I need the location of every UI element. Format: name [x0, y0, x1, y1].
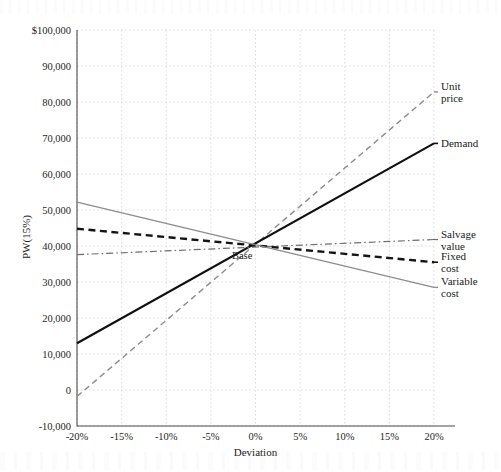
x-axis-title: Deviation: [234, 446, 278, 458]
annotation-base-point: Base: [232, 250, 253, 261]
x-tick-label: -10%: [155, 431, 178, 442]
sensitivity-chart-container: -10,000010,00020,00030,00040,00050,00060…: [0, 0, 501, 472]
y-tick-label: 70,000: [42, 133, 71, 144]
y-tick-label: 0: [66, 385, 71, 396]
chart-background: [0, 0, 501, 472]
x-tick-label: 20%: [424, 431, 444, 442]
y-tick-label: -10,000: [39, 421, 71, 432]
y-tick-label: 30,000: [42, 277, 71, 288]
x-tick-label: 15%: [380, 431, 400, 442]
y-tick-label: 90,000: [42, 61, 71, 72]
x-tick-label: 10%: [335, 431, 355, 442]
y-tick-label: 60,000: [42, 169, 71, 180]
series-label-demand: Demand: [441, 137, 479, 149]
y-axis-title: PW(15%): [20, 215, 33, 259]
y-tick-label: 50,000: [42, 205, 71, 216]
x-tick-label: -15%: [110, 431, 133, 442]
x-tick-label: 0%: [249, 431, 263, 442]
series-label-unit-price: Unitprice: [441, 80, 463, 104]
y-tick-label: 20,000: [42, 313, 71, 324]
x-tick-labels-group: -20%-15%-10%-5%0%5%10%15%20%: [66, 431, 444, 442]
annotations-group: Base: [232, 250, 253, 261]
x-tick-label: 5%: [293, 431, 307, 442]
y-tick-label: $100,000: [32, 25, 71, 36]
spider-chart-svg: -10,000010,00020,00030,00040,00050,00060…: [0, 0, 501, 472]
y-tick-label: 10,000: [42, 349, 71, 360]
y-tick-label: 40,000: [42, 241, 71, 252]
x-tick-label: -20%: [66, 431, 89, 442]
x-tick-label: -5%: [202, 431, 220, 442]
y-tick-label: 80,000: [42, 97, 71, 108]
